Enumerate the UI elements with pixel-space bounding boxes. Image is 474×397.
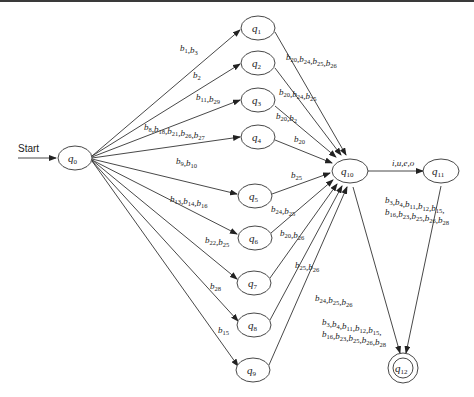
edge-label-q5-q10: b25: [291, 170, 302, 181]
edge-q6-q10: [271, 180, 333, 233]
edge-q0-q4: [92, 137, 240, 158]
edge-label-q2-q10: b20,b24,b25: [279, 87, 317, 102]
edge-label-q8-q10: b25,b26: [295, 260, 320, 273]
edge-q0-q1: [92, 30, 240, 156]
edge-q0-q6: [92, 160, 237, 234]
edge-label-q0-q7: b22,b25: [205, 235, 229, 248]
edge-label-q0-q9: b15: [218, 325, 229, 336]
edge-q0-q7: [92, 160, 237, 279]
edge-label-q3-q10: b20,b2: [276, 111, 297, 124]
edge-label-q9-q10: b24,b25,b26: [315, 293, 353, 308]
automaton-diagram: Start q0 q1 q2 q3 q4 q5 q6 q7 q8 q9 q10 …: [0, 0, 474, 397]
edges: [18, 30, 441, 366]
edge-q2-q10: [275, 68, 341, 155]
edge-q0-q9: [92, 161, 238, 366]
edge-label-q1-q10: b20,b24,b25,b26: [286, 52, 338, 69]
edge-label-q7-q10: b20,b26: [280, 228, 305, 241]
edge-q3-q10: [275, 106, 336, 157]
edge-label-q4-q10: b20: [294, 134, 305, 145]
edge-label-q0-q3: b11,b29: [196, 92, 220, 105]
start-label: Start: [18, 143, 39, 154]
edge-label-q10-q11: i,u,e,o: [392, 158, 415, 168]
edge-q0-q5: [92, 159, 237, 194]
edge-label-q0-q5: b9,b10: [176, 156, 197, 169]
edge-label-q0-q8: b28: [210, 281, 221, 292]
edge-q0-q2: [92, 64, 240, 156]
edge-label-q6-q10: b24,b25: [271, 204, 295, 217]
edge-label-q0-q2: b2: [193, 70, 201, 81]
edge-label-q0-q6: b13,b14,b16: [170, 194, 208, 209]
edge-label-q0-q1: b1,b3: [180, 43, 198, 56]
